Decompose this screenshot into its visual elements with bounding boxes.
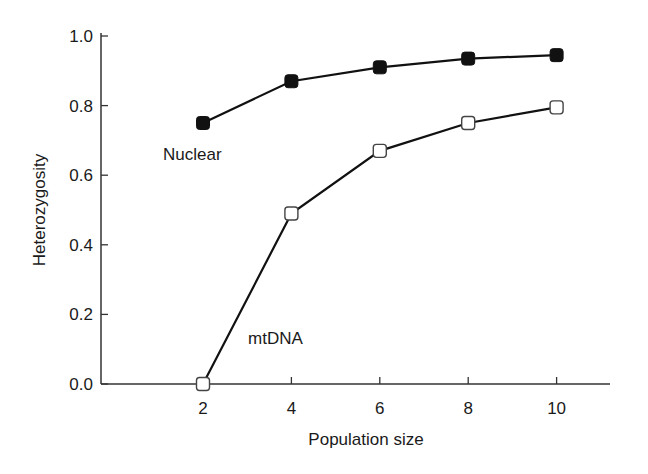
x-ticks: 246810	[198, 377, 566, 418]
y-tick-label: 0.2	[69, 305, 93, 324]
y-tick-label: 0.0	[69, 375, 93, 394]
open-square-marker	[373, 144, 386, 157]
open-square-marker	[462, 117, 475, 130]
x-tick-label: 2	[198, 399, 207, 418]
y-tick-label: 0.6	[69, 166, 93, 185]
filled-square-marker	[550, 49, 563, 62]
filled-square-marker	[373, 61, 386, 74]
open-square-marker	[197, 378, 210, 391]
filled-square-marker	[285, 75, 298, 88]
y-tick-label: 1.0	[69, 27, 93, 46]
label-mtdna: mtDNA	[248, 329, 303, 348]
filled-square-marker	[197, 117, 210, 130]
y-ticks: 0.00.20.40.60.81.0	[69, 27, 108, 394]
filled-square-marker	[462, 52, 475, 65]
x-tick-label: 4	[287, 399, 296, 418]
y-axis-title: Heterozygosity	[30, 153, 49, 266]
y-tick-label: 0.8	[69, 97, 93, 116]
label-nuclear: Nuclear	[163, 145, 222, 164]
axes	[101, 33, 610, 384]
line-chart: 0.00.20.40.60.81.0 246810 Heterozygosity…	[0, 0, 648, 474]
open-square-marker	[550, 101, 563, 114]
x-axis-title: Population size	[308, 430, 423, 449]
x-tick-label: 6	[375, 399, 384, 418]
open-square-marker	[285, 207, 298, 220]
x-tick-label: 10	[547, 399, 566, 418]
x-tick-label: 8	[463, 399, 472, 418]
y-tick-label: 0.4	[69, 236, 93, 255]
